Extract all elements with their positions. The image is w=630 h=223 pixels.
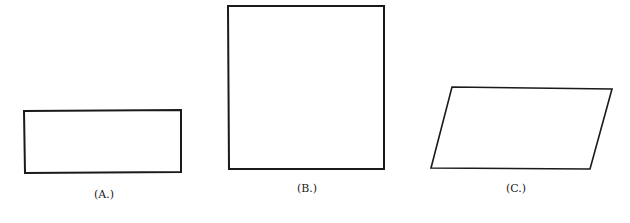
- square-b: [228, 6, 384, 169]
- parallelogram-c: [431, 87, 612, 169]
- rectangle-a: [24, 110, 181, 173]
- label-c: (C.): [506, 182, 526, 195]
- label-a: (A.): [94, 188, 114, 201]
- label-b: (B.): [297, 182, 317, 195]
